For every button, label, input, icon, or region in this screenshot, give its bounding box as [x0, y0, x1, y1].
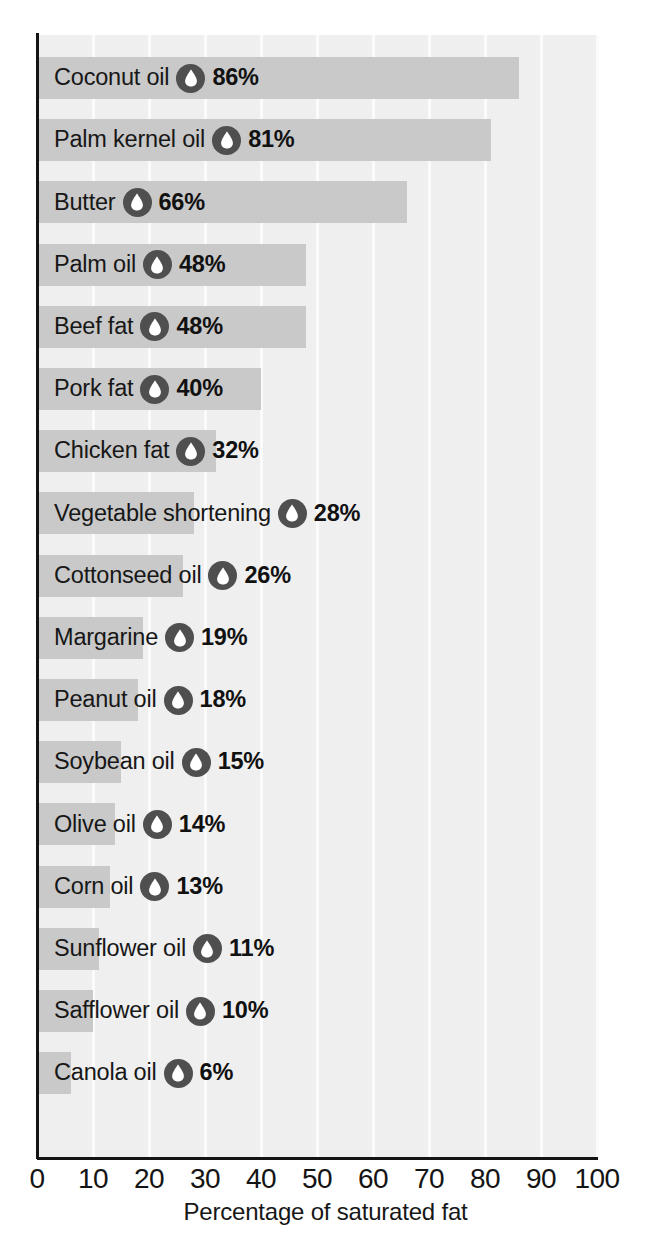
bar-value-label: 48%	[179, 253, 225, 277]
bar-category-label: Vegetable shortening	[54, 502, 271, 526]
bar-category-label: Canola oil	[54, 1061, 157, 1085]
x-tick-0: 0	[29, 1163, 44, 1195]
oil-droplet-icon	[143, 810, 172, 839]
bar-label-group: Corn oil13%	[54, 866, 223, 908]
bar-label-group: Chicken fat32%	[54, 430, 259, 472]
bar-category-label: Peanut oil	[54, 688, 157, 712]
bar-label-group: Palm oil48%	[54, 244, 225, 286]
x-tick-100: 100	[574, 1163, 619, 1195]
x-tick-70: 70	[414, 1163, 444, 1195]
bar-row[interactable]: Vegetable shortening28%	[37, 492, 597, 534]
bar-series: Coconut oil86%Palm kernel oil81%Butter66…	[37, 35, 597, 1157]
bar-label-group: Sunflower oil11%	[54, 928, 274, 970]
bar-value-label: 14%	[179, 813, 225, 837]
bar-label-group: Safflower oil10%	[54, 990, 268, 1032]
bar-category-label: Pork fat	[54, 377, 133, 401]
bar-row[interactable]: Olive oil14%	[37, 803, 597, 845]
oil-droplet-icon	[208, 561, 237, 590]
x-tick-30: 30	[190, 1163, 220, 1195]
bar-category-label: Chicken fat	[54, 439, 169, 463]
bar-value-label: 13%	[176, 875, 222, 899]
oil-droplet-icon	[140, 375, 169, 404]
oil-droplet-icon	[140, 872, 169, 901]
bar-category-label: Coconut oil	[54, 66, 169, 90]
oil-droplet-icon	[278, 499, 307, 528]
x-tick-40: 40	[246, 1163, 276, 1195]
oil-droplet-icon	[176, 437, 205, 466]
bar-row[interactable]: Cottonseed oil26%	[37, 555, 597, 597]
bar-value-label: 28%	[314, 502, 360, 526]
x-axis-line	[37, 1157, 598, 1160]
y-axis-line	[36, 33, 39, 1159]
x-tick-60: 60	[358, 1163, 388, 1195]
bar-value-label: 40%	[176, 377, 222, 401]
bar-category-label: Margarine	[54, 626, 158, 650]
oil-droplet-icon	[193, 934, 222, 963]
bar-label-group: Pork fat40%	[54, 368, 223, 410]
bar-category-label: Safflower oil	[54, 999, 179, 1023]
bar-row[interactable]: Chicken fat32%	[37, 430, 597, 472]
bar-category-label: Sunflower oil	[54, 937, 186, 961]
bar-row[interactable]: Butter66%	[37, 181, 597, 223]
oil-droplet-icon	[182, 748, 211, 777]
bar-row[interactable]: Safflower oil10%	[37, 990, 597, 1032]
bar-row[interactable]: Pork fat40%	[37, 368, 597, 410]
oil-droplet-icon	[140, 312, 169, 341]
bar-value-label: 6%	[200, 1061, 234, 1085]
oil-droplet-icon	[186, 997, 215, 1026]
oil-droplet-icon	[143, 250, 172, 279]
bar-value-label: 10%	[222, 999, 268, 1023]
x-tick-20: 20	[134, 1163, 164, 1195]
bar-label-group: Vegetable shortening28%	[54, 492, 360, 534]
x-axis-tick-labels: 0102030405060708090100	[0, 1163, 651, 1203]
bar-row[interactable]: Margarine19%	[37, 617, 597, 659]
bar-label-group: Palm kernel oil81%	[54, 119, 295, 161]
bar-label-group: Butter66%	[54, 181, 205, 223]
bar-row[interactable]: Soybean oil15%	[37, 741, 597, 783]
x-tick-80: 80	[470, 1163, 500, 1195]
bar-value-label: 26%	[244, 564, 290, 588]
bar-row[interactable]: Sunflower oil11%	[37, 928, 597, 970]
bar-label-group: Beef fat48%	[54, 306, 223, 348]
bar-label-group: Soybean oil15%	[54, 741, 264, 783]
oil-droplet-icon	[165, 623, 194, 652]
bar-row[interactable]: Beef fat48%	[37, 306, 597, 348]
oil-droplet-icon	[212, 126, 241, 155]
bar-label-group: Olive oil14%	[54, 803, 225, 845]
bar-row[interactable]: Palm oil48%	[37, 244, 597, 286]
bar-value-label: 48%	[176, 315, 222, 339]
bar-category-label: Corn oil	[54, 875, 133, 899]
bar-label-group: Canola oil6%	[54, 1052, 233, 1094]
bar-value-label: 66%	[159, 191, 205, 215]
oil-droplet-icon	[176, 64, 205, 93]
bar-row[interactable]: Corn oil13%	[37, 866, 597, 908]
x-tick-50: 50	[302, 1163, 332, 1195]
bar-row[interactable]: Palm kernel oil81%	[37, 119, 597, 161]
x-tick-10: 10	[78, 1163, 108, 1195]
bar-label-group: Cottonseed oil26%	[54, 555, 291, 597]
saturated-fat-bar-chart: Coconut oil86%Palm kernel oil81%Butter66…	[0, 0, 651, 1242]
bar-category-label: Butter	[54, 191, 116, 215]
plot-area: Coconut oil86%Palm kernel oil81%Butter66…	[37, 35, 597, 1157]
bar-row[interactable]: Coconut oil86%	[37, 57, 597, 99]
bar-label-group: Margarine19%	[54, 617, 247, 659]
bar-category-label: Soybean oil	[54, 750, 175, 774]
bar-value-label: 19%	[201, 626, 247, 650]
oil-droplet-icon	[123, 188, 152, 217]
bar-label-group: Coconut oil86%	[54, 57, 259, 99]
bar-row[interactable]: Peanut oil18%	[37, 679, 597, 721]
bar-value-label: 86%	[212, 66, 258, 90]
bar-value-label: 18%	[200, 688, 246, 712]
bar-category-label: Palm oil	[54, 253, 136, 277]
bar-value-label: 32%	[212, 439, 258, 463]
oil-droplet-icon	[164, 1059, 193, 1088]
x-axis-title: Percentage of saturated fat	[0, 1198, 651, 1226]
bar-category-label: Olive oil	[54, 813, 136, 837]
bar-value-label: 15%	[218, 750, 264, 774]
bar-row[interactable]: Canola oil6%	[37, 1052, 597, 1094]
bar-category-label: Cottonseed oil	[54, 564, 201, 588]
bar-value-label: 81%	[248, 128, 294, 152]
oil-droplet-icon	[164, 686, 193, 715]
bar-label-group: Peanut oil18%	[54, 679, 246, 721]
bar-category-label: Palm kernel oil	[54, 128, 205, 152]
